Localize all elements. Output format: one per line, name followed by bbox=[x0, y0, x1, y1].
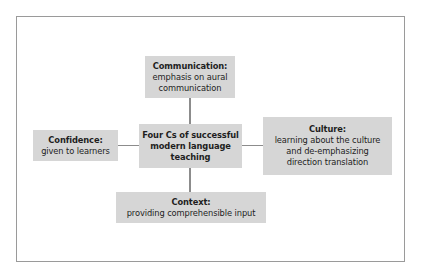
node-communication: Communication: emphasis on aural communi… bbox=[145, 56, 235, 98]
node-center-line-1: Four Cs of successful bbox=[142, 130, 238, 141]
node-context-text-1: providing comprehensible input bbox=[127, 208, 256, 219]
node-communication-text-2: communication bbox=[159, 83, 222, 94]
connector-bottom bbox=[189, 168, 191, 192]
node-confidence-text-1: given to learners bbox=[41, 146, 110, 157]
node-culture-title: Culture: bbox=[309, 124, 346, 135]
node-culture-text-3: direction translation bbox=[287, 157, 369, 168]
node-communication-text-1: emphasis on aural bbox=[153, 72, 228, 83]
node-culture-text-1: learning about the culture bbox=[275, 135, 381, 146]
connector-right bbox=[242, 145, 263, 146]
connector-left bbox=[118, 145, 139, 146]
node-confidence: Confidence: given to learners bbox=[33, 130, 118, 161]
node-culture-text-2: and de-emphasizing bbox=[286, 146, 368, 157]
node-confidence-title: Confidence: bbox=[48, 135, 102, 146]
connector-top bbox=[189, 98, 191, 124]
node-culture: Culture: learning about the culture and … bbox=[263, 117, 392, 175]
node-context-title: Context: bbox=[171, 197, 210, 208]
node-center-line-2: modern language bbox=[150, 141, 231, 152]
node-context: Context: providing comprehensible input bbox=[116, 192, 266, 223]
node-center-line-3: teaching bbox=[171, 152, 211, 163]
node-communication-title: Communication: bbox=[153, 61, 228, 72]
node-center: Four Cs of successful modern language te… bbox=[139, 124, 242, 168]
